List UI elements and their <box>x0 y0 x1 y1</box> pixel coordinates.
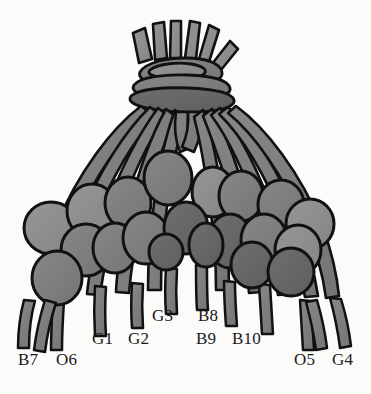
tail-4 <box>131 283 143 328</box>
cord-label-g1: G1 <box>92 330 113 347</box>
cord-label-b9: B9 <box>196 330 216 347</box>
tail-7 <box>224 281 237 326</box>
quipu-illustration <box>0 0 371 394</box>
cord-label-g4: G4 <box>332 351 353 368</box>
cord-label-b7: B7 <box>18 351 38 368</box>
tuft-2 <box>153 22 167 60</box>
knot-oval <box>144 151 192 205</box>
cord-label-o6: O6 <box>56 351 77 368</box>
tail-6 <box>196 265 208 310</box>
cord-label-g3: G3 <box>152 307 173 324</box>
cord-label-b10: B10 <box>232 330 261 347</box>
quipu-figure: B7 O6 G1 G2 G3 B8 B9 B10 O5 G4 <box>0 0 371 394</box>
knot-oval <box>189 223 223 267</box>
cord-label-o5: O5 <box>294 351 315 368</box>
knot-oval <box>268 248 314 296</box>
cord-label-b8: B8 <box>198 307 218 324</box>
cord-label-g2: G2 <box>128 330 149 347</box>
knot-oval <box>149 234 183 270</box>
collar-bundle <box>130 58 234 112</box>
knot-oval <box>32 251 82 305</box>
tail-8 <box>259 284 273 334</box>
knot-oval <box>231 242 273 288</box>
tuft-3 <box>170 21 181 58</box>
